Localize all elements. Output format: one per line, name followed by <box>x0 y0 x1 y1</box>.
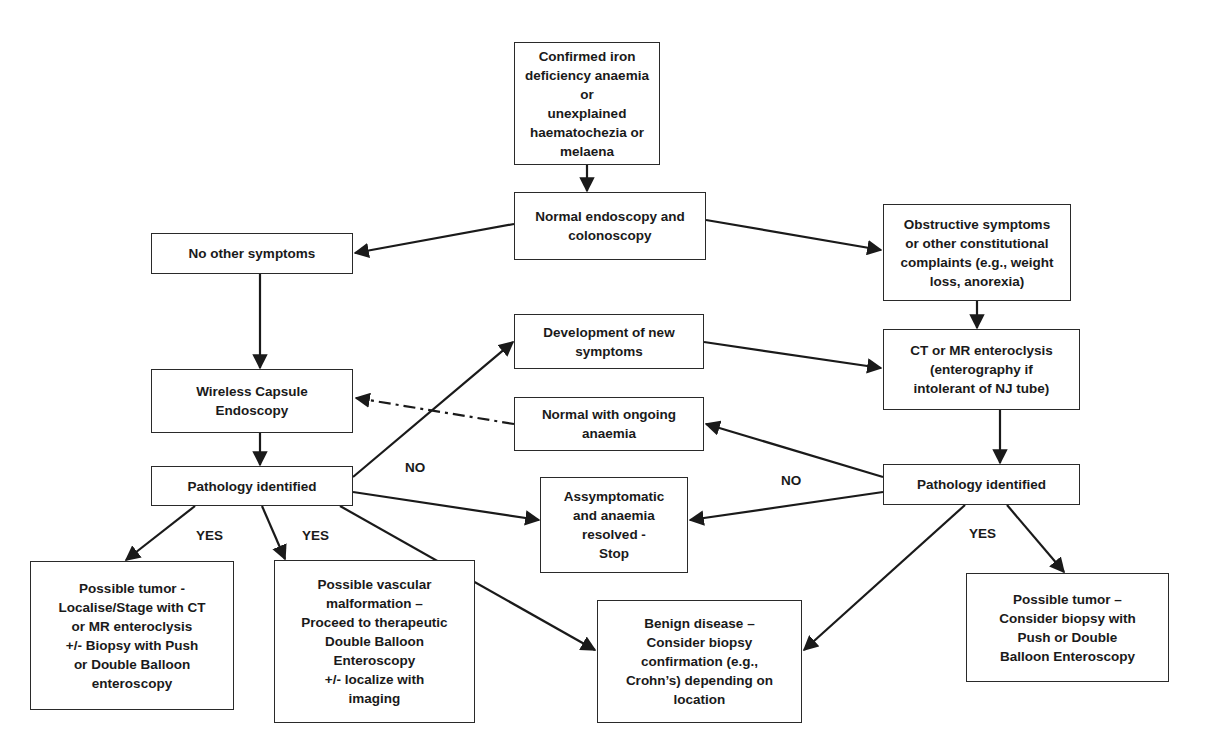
flowchart: Confirmed iron deficiency anaemia or une… <box>0 0 1205 756</box>
node-no-other-symptoms: No other symptoms <box>151 233 353 274</box>
node-pathology-identified-left: Pathology identified <box>151 466 353 506</box>
edge-label-yes-left-2: YES <box>302 528 329 543</box>
arrow-endoscopy-to-no-symptoms <box>355 224 514 253</box>
node-asymptomatic-stop: Assymptomatic and anaemia resolved - Sto… <box>540 477 688 573</box>
dashdot-arrow-normal-ongoing-to-capsule <box>356 398 514 424</box>
node-possible-tumor-left: Possible tumor - Localise/Stage with CT … <box>30 561 234 710</box>
arrow-pathology-left-to-new-symptoms <box>353 342 513 477</box>
arrow-new-symptoms-to-ctmr <box>704 342 881 368</box>
arrow-pathology-left-to-tumor-left <box>126 506 195 560</box>
node-ct-mr-enteroclysis: CT or MR enteroclysis (enterography if i… <box>883 329 1080 410</box>
edge-label-no-right: NO <box>781 473 801 488</box>
node-vascular-malformation: Possible vascular malformation – Proceed… <box>274 560 475 723</box>
node-start: Confirmed iron deficiency anaemia or une… <box>514 42 660 165</box>
arrow-pathology-left-to-asymptomatic <box>353 492 539 520</box>
node-normal-ongoing-anaemia: Normal with ongoing anaemia <box>514 397 704 451</box>
node-pathology-identified-right: Pathology identified <box>883 464 1080 505</box>
arrow-pathology-right-to-normal-ongoing <box>706 424 883 477</box>
arrow-endoscopy-to-obstructive <box>706 220 881 250</box>
node-normal-endoscopy: Normal endoscopy and colonoscopy <box>514 192 706 260</box>
node-new-symptoms: Development of new symptoms <box>514 314 704 369</box>
node-obstructive-symptoms: Obstructive symptoms or other constituti… <box>883 204 1071 301</box>
arrow-pathology-right-to-tumor-right <box>1007 505 1064 572</box>
node-wireless-capsule: Wireless Capsule Endoscopy <box>151 369 353 433</box>
edge-label-yes-right: YES <box>969 526 996 541</box>
node-possible-tumor-right: Possible tumor – Consider biopsy with Pu… <box>966 573 1169 682</box>
node-benign-disease: Benign disease – Consider biopsy confirm… <box>597 600 802 723</box>
arrow-pathology-right-to-benign <box>804 505 965 650</box>
arrow-pathology-left-to-vascular <box>262 506 285 559</box>
edge-label-no-left: NO <box>405 460 425 475</box>
edge-label-yes-left-1: YES <box>196 528 223 543</box>
arrow-pathology-right-to-asymptomatic <box>690 492 883 520</box>
